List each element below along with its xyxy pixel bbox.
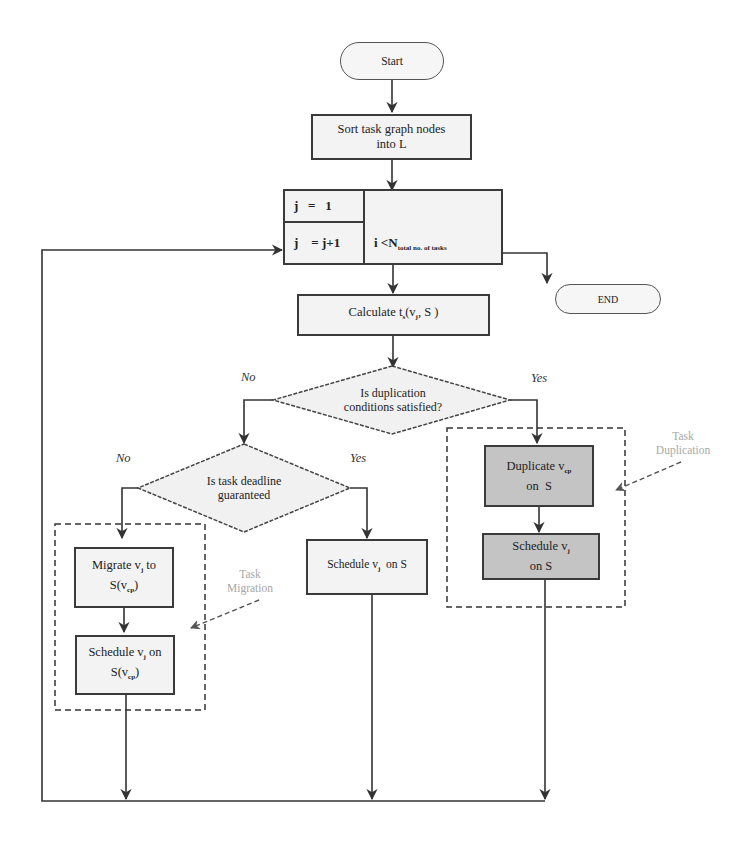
edge-label-deadline-yes: Yes: [350, 451, 366, 466]
start-label: Start: [381, 54, 403, 69]
schedule-direct-box: Schedule vj on S: [306, 539, 428, 595]
loop-increment-cell: j = j+1: [284, 222, 364, 264]
schedule-migrate-box: Schedule vj on S(vcp): [75, 635, 175, 695]
calculate-box: Calculate ts(vj, S ): [297, 294, 490, 336]
loop-init-text: j = 1: [294, 198, 332, 214]
migrate-box: Migrate vj to S(vcp): [74, 547, 174, 608]
sort-line1: Sort task graph nodes: [338, 122, 446, 137]
migrate-line2: S(vcp): [110, 578, 139, 598]
decision-deadline-line1: Is task deadline: [207, 474, 282, 488]
decision-duplication-line1: Is duplication: [360, 386, 426, 400]
annotation-task-migration: Task Migration: [214, 567, 286, 595]
end-terminal: END: [555, 284, 661, 314]
sort-nodes-box: Sort task graph nodes into L: [311, 114, 472, 160]
loop-condition-cell: i <Ntotal no. of tasks: [364, 222, 502, 264]
edge-deadline-no: [122, 488, 138, 538]
annotation-task-duplication: Task Duplication: [645, 429, 721, 457]
duplicate-line1: Duplicate vcp: [507, 459, 572, 479]
schedule-direct-label: Schedule vj on S: [327, 557, 407, 577]
annotation-migration-line1: Task: [214, 567, 286, 581]
loop-condition-text: i <Ntotal no. of tasks: [374, 235, 447, 252]
loop-increment-text: j = j+1: [294, 235, 340, 251]
calculate-label: Calculate ts(vj, S ): [349, 305, 439, 325]
edge-deadline-yes: [350, 488, 367, 538]
annotation-duplication-line1: Task: [645, 429, 721, 443]
annotation-migration-line2: Migration: [214, 581, 286, 595]
schedule-migrate-line1: Schedule vj on: [88, 645, 161, 665]
annotation-arrow-migration: [191, 600, 259, 628]
decision-deadline-line2: guaranteed: [218, 488, 271, 502]
migrate-line1: Migrate vj to: [92, 558, 156, 578]
duplicate-line2: on S: [526, 479, 552, 494]
decision-duplication-line2: conditions satisfied?: [344, 400, 442, 414]
edge-label-dup-yes: Yes: [531, 371, 547, 386]
decision-duplication: Is duplication conditions satisfied?: [313, 385, 473, 415]
edge-dup-yes: [510, 400, 537, 443]
schedule-dup-line2: on S: [530, 559, 553, 574]
loop-init-cell: j = 1: [284, 190, 364, 222]
schedule-migrate-line2: S(vcp): [111, 665, 140, 685]
duplicate-box: Duplicate vcp on S: [484, 445, 594, 507]
sort-line2: into L: [376, 137, 406, 152]
edge-label-deadline-no: No: [116, 451, 131, 466]
schedule-dup-line1: Schedule vj: [512, 539, 570, 559]
annotation-duplication-line2: Duplication: [645, 443, 721, 457]
start-terminal: Start: [340, 42, 444, 80]
decision-deadline: Is task deadline guaranteed: [174, 473, 314, 503]
edge-label-dup-no: No: [241, 370, 256, 385]
edge-loop-end: [502, 253, 547, 283]
edge-dup-no: [244, 400, 273, 443]
schedule-dup-box: Schedule vj on S: [482, 533, 600, 580]
end-label: END: [598, 292, 619, 307]
